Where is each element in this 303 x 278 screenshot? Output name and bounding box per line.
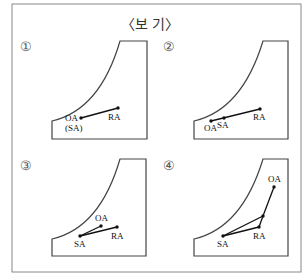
label-oa: OA [95,213,108,223]
point-ra [115,225,118,228]
label-sa: SA [74,239,86,249]
point-oa [79,116,82,119]
point-sa [78,234,81,237]
point-sa [221,234,224,237]
region-outline [52,159,146,256]
label-ra: RA [253,112,266,122]
label-sa: SA [217,239,229,249]
label-ra: RA [111,231,124,241]
panel-2: ② OA SA RA [163,39,288,139]
diagram-title: 〈보 기〉 [121,16,179,32]
segment-oa-mid [263,187,274,216]
label-ra: RA [253,231,266,241]
label-sa: SA [217,120,229,130]
panel-number: ① [20,39,32,54]
panel-number: ② [163,39,175,54]
point-oa [272,185,275,188]
label-sa: (SA) [65,123,83,133]
label-oa: OA [204,123,217,133]
panel-1: ① OA (SA) RA [20,39,147,139]
point-ra [258,107,261,110]
panel-3: ③ OA SA RA [20,158,146,256]
point-mid [261,214,264,217]
panel-4: ④ OA SA RA [163,158,288,256]
point-ra [257,225,260,228]
diagram-canvas: 〈보 기〉 ① OA (SA) RA ② OA SA RA ③ OA SA RA [0,0,303,278]
panel-number: ④ [163,158,175,173]
label-ra: RA [108,112,121,122]
label-oa: OA [268,174,281,184]
label-oa: OA [65,113,78,123]
panel-number: ③ [20,158,32,173]
point-oa [99,224,102,227]
point-ra [116,106,119,109]
